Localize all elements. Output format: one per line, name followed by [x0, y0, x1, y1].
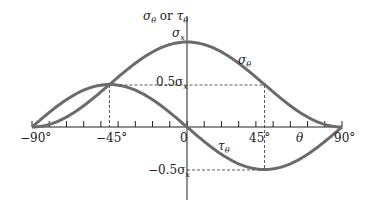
half-sigma-label: 0.5σx — [156, 75, 188, 91]
theta-axis-label: θ — [296, 131, 304, 145]
sigma-x-label: σx — [172, 26, 185, 42]
stress-transformation-diagram: σθ or τθ σx 0.5σx −0.5σx σθ τθ θ −90° −4… — [0, 0, 369, 209]
tau-theta-label: τθ — [218, 139, 230, 155]
tick-label-0: 0 — [180, 131, 188, 145]
tick-label-45: 45° — [249, 131, 270, 145]
tick-label-90: 90° — [334, 131, 355, 145]
neg-half-sigma-label: −0.5σx — [148, 163, 190, 179]
tick-label-m45: −45° — [96, 131, 127, 145]
sigma-theta-label: σθ — [238, 53, 251, 69]
tick-label-m90: −90° — [20, 131, 51, 145]
y-axis-title: σθ or τθ — [143, 9, 188, 25]
